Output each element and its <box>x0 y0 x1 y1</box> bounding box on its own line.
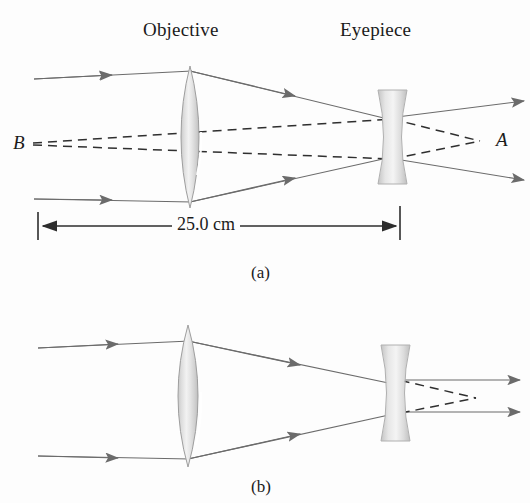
image-point-label-a: A <box>496 130 508 149</box>
panel-a-rays <box>33 66 524 240</box>
objective-label: Objective <box>143 20 219 39</box>
eyepiece-lens-b <box>381 345 410 441</box>
panel-b-rays <box>38 325 520 467</box>
panel-b-caption: (b) <box>251 478 271 495</box>
dashed-to-image-lower-a <box>392 141 480 159</box>
dashed-virtual-lower-a <box>33 145 392 159</box>
ray-arrowhead-converging-lower-a <box>190 178 295 202</box>
ray-arrowhead-incoming-lower-a <box>34 199 112 200</box>
eyepiece-label: Eyepiece <box>340 20 411 39</box>
ray-arrowhead-incoming-upper-b <box>38 344 118 348</box>
ray-arrowhead-converging-upper-b <box>188 341 300 365</box>
dimension-value-label: 25.0 cm <box>172 215 240 233</box>
objective-lens-a <box>181 66 201 208</box>
optics-figure: Objective Eyepiece B A 25.0 cm (a) (b) <box>0 0 530 503</box>
dashed-virtual-upper-a <box>33 119 392 143</box>
ray-exit-upper-a <box>389 101 524 118</box>
ray-exit-lower-a <box>389 158 524 180</box>
eyepiece-lens-a <box>378 90 407 184</box>
ray-arrowhead-converging-upper-a <box>190 71 295 96</box>
object-point-label-b: B <box>13 133 25 152</box>
dashed-to-image-upper-a <box>392 119 480 141</box>
figure-canvas <box>0 0 530 503</box>
ray-arrowhead-incoming-upper-a <box>34 75 112 79</box>
panel-a-caption: (a) <box>251 264 270 281</box>
objective-lens-b <box>178 325 201 467</box>
ray-arrowhead-converging-lower-b <box>188 434 300 459</box>
